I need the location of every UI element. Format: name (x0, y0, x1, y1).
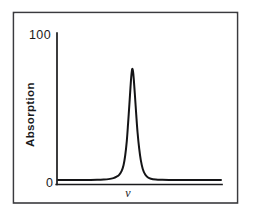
x-axis-title: ν (125, 186, 131, 200)
y-axis-max-label: 100 (29, 28, 51, 42)
y-axis-origin-label: 0 (46, 176, 53, 190)
chart-canvas: 100 0 Absorption ν (0, 0, 253, 215)
y-axis-title: Absorption (24, 82, 36, 147)
absorption-spectrum-figure: 100 0 Absorption ν (0, 0, 253, 215)
